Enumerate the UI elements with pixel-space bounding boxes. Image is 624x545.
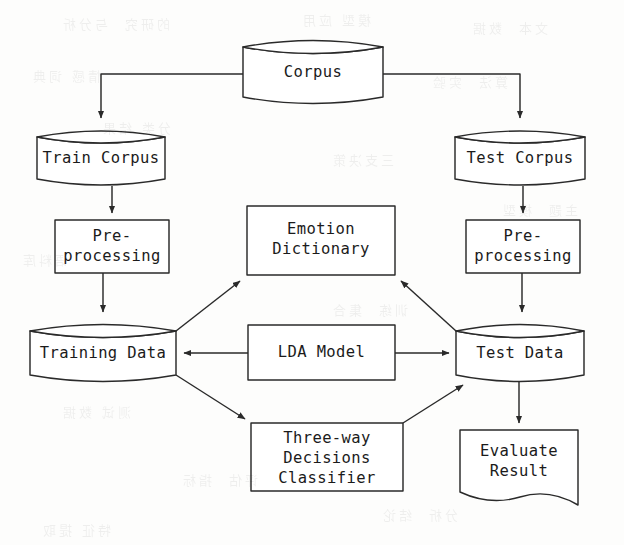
scan-bleed-artifact: 三支决策 [330, 150, 394, 169]
node-training-data [30, 325, 176, 382]
node-pre-left [55, 220, 169, 273]
scan-bleed-artifact: 主题 模型 [500, 200, 578, 219]
node-test-corpus [455, 131, 585, 185]
scan-bleed-artifact: 分析 结论 [380, 505, 458, 524]
scan-bleed-artifact: 的研究 与分析 [60, 14, 170, 33]
scan-bleed-artifact: 文本 数据 [470, 18, 548, 37]
node-lda-model [248, 325, 395, 380]
edge-corpus-train-corpus [101, 74, 243, 118]
scan-bleed-artifact: 模型 应用 [300, 10, 371, 29]
scan-bleed-artifact: 语料库 [20, 250, 68, 269]
scan-bleed-artifact: 情感 词典 [30, 66, 101, 85]
edge-test-data-emotion-dictionary [401, 281, 456, 331]
node-test-data [456, 325, 584, 382]
scan-bleed-artifact: 算法 实验 [430, 72, 508, 91]
flowchart-page: Corpus Train Corpus Test Corpus Pre- pro… [0, 0, 624, 545]
node-classifier [251, 423, 403, 491]
edge-classifier-test-data [403, 385, 463, 423]
scan-bleed-artifact: 分类 结果 [100, 118, 171, 137]
edge-training-data-emotion-dictionary [176, 281, 240, 331]
node-evaluate-result [460, 430, 578, 505]
node-train-corpus [37, 131, 165, 185]
node-emotion-dictionary [247, 206, 395, 275]
scan-bleed-artifact: 测试 数据 [60, 402, 131, 421]
scan-bleed-artifact: 评估 指标 [180, 470, 258, 489]
node-pre-right [466, 220, 580, 273]
edge-training-data-classifier [176, 375, 245, 419]
scan-bleed-artifact: 训练 集合 [330, 300, 408, 319]
node-corpus [243, 41, 383, 104]
scan-bleed-artifact: 特征 提取 [40, 520, 111, 539]
